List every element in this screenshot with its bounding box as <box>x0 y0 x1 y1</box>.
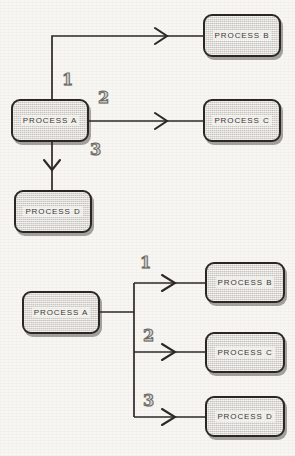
branch-number-2-bottom: 2 <box>143 328 154 344</box>
node-label: PROCESS A <box>32 307 90 318</box>
branch-number-3-top: 3 <box>90 142 101 158</box>
node-label: PROCESS B <box>213 30 272 41</box>
node-label: PROCESS D <box>215 411 274 422</box>
branch-number-1-bottom: 1 <box>140 255 151 271</box>
node-process-a-top[interactable]: PROCESS A <box>11 99 89 142</box>
node-process-c-bottom[interactable]: PROCESS C <box>205 332 285 373</box>
node-label: PROCESS B <box>216 277 275 288</box>
node-process-b-bottom[interactable]: PROCESS B <box>205 262 285 303</box>
node-label: PROCESS C <box>215 347 274 358</box>
branch-number-2-top: 2 <box>98 90 109 106</box>
node-process-b-top[interactable]: PROCESS B <box>203 14 281 57</box>
node-process-d-top[interactable]: PROCESS D <box>14 190 92 233</box>
branch-number-3-bottom: 3 <box>143 393 154 409</box>
edge-top-a-to-b <box>52 36 203 99</box>
node-label: PROCESS D <box>23 206 82 217</box>
node-process-a-bottom[interactable]: PROCESS A <box>22 291 100 334</box>
branch-number-1-top: 1 <box>62 72 73 88</box>
node-label: PROCESS A <box>21 115 79 126</box>
node-label: PROCESS C <box>212 115 271 126</box>
node-process-d-bottom[interactable]: PROCESS D <box>205 396 285 437</box>
node-process-c-top[interactable]: PROCESS C <box>203 99 281 142</box>
diagram-page: PROCESS A PROCESS B PROCESS C PROCESS D … <box>0 0 295 456</box>
